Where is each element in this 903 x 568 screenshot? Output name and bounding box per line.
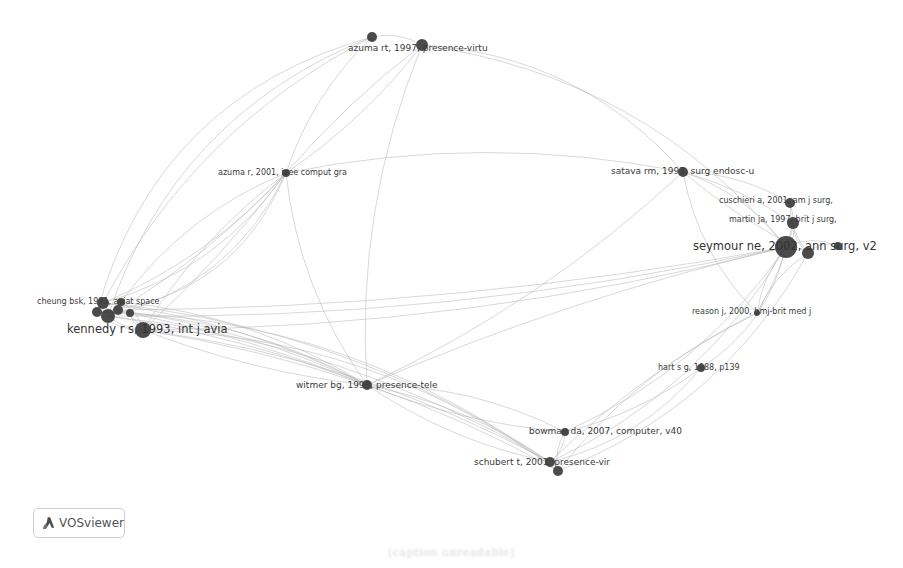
node-label[interactable]: cheung bsk, 1991, aviat space xyxy=(37,298,159,306)
network-edge xyxy=(365,45,422,385)
figure-caption: [caption unreadable] xyxy=(0,546,903,559)
network-node[interactable] xyxy=(92,307,102,317)
network-node[interactable] xyxy=(101,309,115,323)
network-edge xyxy=(121,302,367,385)
network-node[interactable] xyxy=(367,32,377,42)
network-node[interactable] xyxy=(553,466,563,476)
node-label[interactable]: hart s g, 1988, p139 xyxy=(658,364,740,372)
network-edge xyxy=(97,173,286,312)
node-label[interactable]: reason j, 2000, bmj-brit med j xyxy=(692,308,811,316)
vosviewer-logo-icon xyxy=(42,515,55,531)
network-edge xyxy=(565,247,786,432)
vosviewer-badge[interactable]: VOSviewer xyxy=(33,508,125,538)
network-edge xyxy=(143,330,558,471)
network-edge xyxy=(108,247,786,316)
network-edge xyxy=(286,45,422,173)
node-layer xyxy=(92,32,842,476)
network-edge xyxy=(103,173,286,303)
node-label[interactable]: azuma rt, 1997, presence-virtu xyxy=(348,44,488,53)
network-edge xyxy=(367,385,550,462)
network-edge xyxy=(286,37,372,173)
network-node[interactable] xyxy=(126,309,134,317)
network-edge xyxy=(103,173,286,303)
vosviewer-badge-label: VOSviewer xyxy=(59,516,124,530)
node-label[interactable]: martin ja, 1997, brit j surg, xyxy=(729,216,837,224)
network-edge xyxy=(558,313,757,471)
node-label[interactable]: schubert t, 2001, presence-vir xyxy=(474,458,610,467)
node-label[interactable]: kennedy r s, 1993, int j avia xyxy=(67,324,228,336)
network-edge xyxy=(286,45,422,173)
node-label[interactable]: seymour ne, 2002, ann surg, v2 xyxy=(693,241,877,253)
node-label[interactable]: bowman da, 2007, computer, v40 xyxy=(529,427,682,436)
network-edge xyxy=(143,247,786,330)
network-edge xyxy=(550,368,701,462)
network-edge xyxy=(143,330,367,385)
network-edge xyxy=(367,172,683,385)
network-edge xyxy=(367,385,550,462)
node-label[interactable]: cuschieri a, 2001, am j surg, xyxy=(719,197,833,205)
network-edge xyxy=(143,330,550,462)
node-label[interactable]: witmer bg, 1998, presence-tele xyxy=(296,381,438,390)
network-edge xyxy=(118,247,786,310)
network-edge xyxy=(683,172,786,247)
network-edge xyxy=(143,330,367,385)
network-edge xyxy=(550,313,757,462)
node-label[interactable]: satava rm, 1993, surg endosc-u xyxy=(611,167,754,176)
node-label[interactable]: azuma r, 2001, ieee comput gra xyxy=(218,169,347,177)
network-canvas[interactable] xyxy=(0,0,903,540)
edge-layer xyxy=(97,35,838,471)
network-node[interactable] xyxy=(113,305,123,315)
